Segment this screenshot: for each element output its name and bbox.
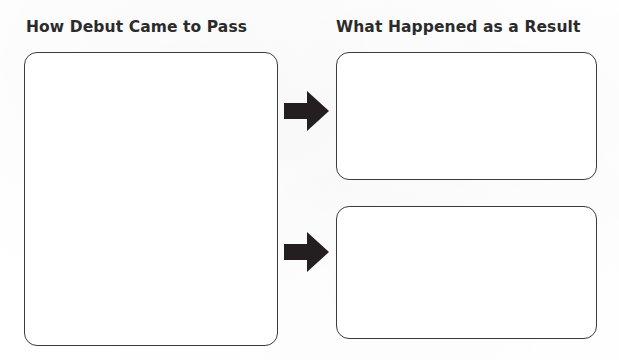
column-heading-result: What Happened as a Result bbox=[336, 20, 580, 36]
answer-box-result-2[interactable] bbox=[336, 206, 597, 339]
column-heading-cause: How Debut Came to Pass bbox=[26, 20, 247, 36]
answer-box-result-1[interactable] bbox=[336, 52, 597, 180]
graphic-organizer-worksheet: How Debut Came to Pass What Happened as … bbox=[0, 0, 619, 360]
right-arrow-icon bbox=[284, 90, 330, 132]
right-arrow-icon bbox=[284, 231, 330, 273]
answer-box-cause[interactable] bbox=[24, 52, 278, 346]
